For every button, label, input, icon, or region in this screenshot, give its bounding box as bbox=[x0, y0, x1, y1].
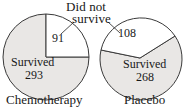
placebo-survived-value: 268 bbox=[136, 70, 154, 85]
chemotherapy-group-label: Chemotherapy bbox=[6, 92, 83, 108]
pie-chart-figure: Did not survive 91 Survived 293 Chemothe… bbox=[0, 0, 189, 111]
placebo-did-not-survive-value: 108 bbox=[118, 26, 136, 41]
did-not-survive-label-line2: survive bbox=[72, 11, 111, 27]
placebo-group-label: Placebo bbox=[124, 92, 165, 108]
chemotherapy-did-not-survive-value: 91 bbox=[52, 31, 64, 46]
chemotherapy-survived-value: 293 bbox=[25, 68, 43, 83]
